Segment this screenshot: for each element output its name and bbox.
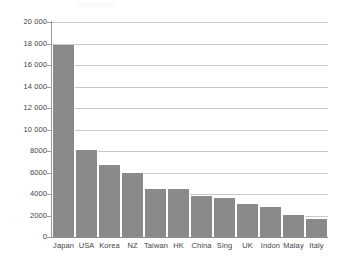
gridline xyxy=(52,237,328,238)
x-axis-tick-label: Indon xyxy=(259,241,282,251)
y-axis-tick-label: 20 000 xyxy=(1,18,47,26)
y-axis-tick-label: 0 xyxy=(1,233,47,241)
bar xyxy=(144,189,167,237)
y-axis-tick-label: 10 000 xyxy=(1,126,47,134)
bar xyxy=(259,207,282,237)
bar xyxy=(98,165,121,237)
bar-series xyxy=(52,22,328,237)
y-axis-tick-label: 12 000 xyxy=(1,104,47,112)
bar xyxy=(190,196,213,237)
bar-chart: 0200040006000800010 00012 00014 00016 00… xyxy=(0,0,343,268)
x-axis-tick-label: UK xyxy=(236,241,259,251)
x-axis-tick-label: NZ xyxy=(121,241,144,251)
y-axis-tick-label: 4000 xyxy=(1,190,47,198)
x-axis-tick-label: Italy xyxy=(305,241,328,251)
bar xyxy=(213,198,236,237)
x-axis-tick-label: Japan xyxy=(52,241,75,251)
page-artifact xyxy=(78,2,114,7)
y-axis-tick-labels: 0200040006000800010 00012 00014 00016 00… xyxy=(0,0,47,268)
x-axis-tick-label: USA xyxy=(75,241,98,251)
bar xyxy=(305,219,328,237)
bar xyxy=(75,150,98,237)
plot-area xyxy=(52,22,328,237)
y-axis-tick-label: 18 000 xyxy=(1,40,47,48)
x-axis-tick-label: Taiwan xyxy=(144,241,167,251)
x-axis-tick-label: HK xyxy=(167,241,190,251)
x-axis-tick-labels: JapanUSAKoreaNZTaiwanHKChinaSingUKIndonM… xyxy=(52,241,328,255)
bar xyxy=(52,45,75,237)
y-axis-tick-label: 2000 xyxy=(1,212,47,220)
y-axis-tick-label: 16 000 xyxy=(1,61,47,69)
y-axis-tick-label: 8000 xyxy=(1,147,47,155)
bar xyxy=(121,173,144,237)
bar xyxy=(236,204,259,237)
bar xyxy=(167,189,190,237)
y-axis-tick-label: 6000 xyxy=(1,169,47,177)
x-axis-tick-label: Malay xyxy=(282,241,305,251)
bar xyxy=(282,215,305,237)
x-axis-tick-label: Sing xyxy=(213,241,236,251)
y-axis-tick-label: 14 000 xyxy=(1,83,47,91)
x-axis-tick-label: Korea xyxy=(98,241,121,251)
x-axis-tick-label: China xyxy=(190,241,213,251)
